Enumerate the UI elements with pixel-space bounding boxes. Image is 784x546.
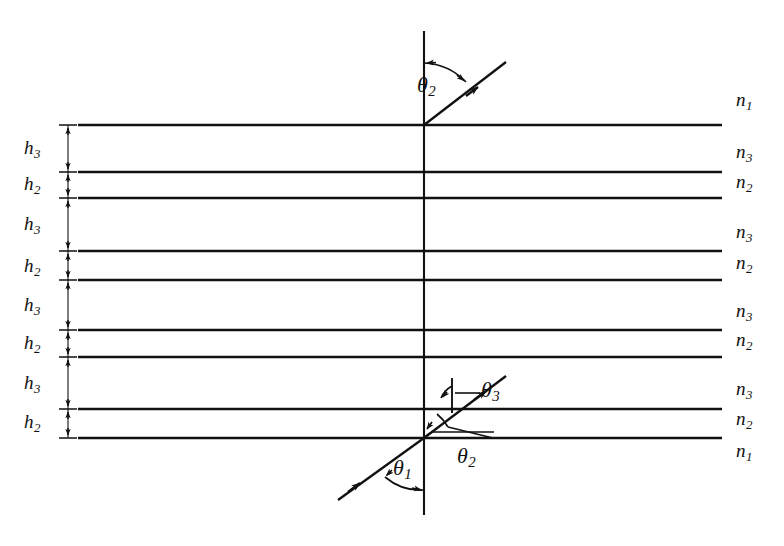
index-label-n2: n2 bbox=[736, 330, 752, 353]
theta1-arc-head-upper bbox=[387, 470, 393, 476]
incident-ray-arrowhead bbox=[348, 483, 360, 492]
angle-label-theta3: θ3 bbox=[481, 379, 500, 404]
theta2-top-arc-head-left bbox=[427, 63, 436, 64]
angle-label-theta2-bottom: θ2 bbox=[457, 445, 476, 470]
thickness-dimension-stack bbox=[59, 125, 77, 438]
angle-label-theta2-top: θ2 bbox=[417, 74, 436, 99]
index-label-n3: n3 bbox=[736, 301, 752, 324]
theta2-bottom-arc bbox=[424, 414, 494, 438]
index-label-n2: n2 bbox=[736, 409, 752, 432]
thickness-label-h3: h3 bbox=[24, 295, 40, 318]
thickness-label-h2: h2 bbox=[24, 256, 40, 279]
thickness-label-h3: h3 bbox=[24, 138, 40, 161]
index-label-n2: n2 bbox=[736, 172, 752, 195]
diagram-canvas bbox=[0, 0, 784, 546]
optics-ray-diagram-figure: n1 n3 n2 n3 n2 n3 n2 n3 n2 n1 h3 h2 h3 h… bbox=[0, 0, 784, 546]
thickness-label-h3: h3 bbox=[24, 373, 40, 396]
theta2-bottom-arc-head bbox=[427, 422, 432, 429]
angle-label-theta1: θ1 bbox=[393, 457, 412, 482]
thickness-label-h2: h2 bbox=[24, 333, 40, 356]
index-label-n2: n2 bbox=[736, 253, 752, 276]
thickness-label-h2: h2 bbox=[24, 174, 40, 197]
index-label-n1-top: n1 bbox=[736, 90, 752, 113]
theta3-arc bbox=[441, 386, 480, 398]
normal-line-group bbox=[424, 31, 452, 515]
thickness-label-h2: h2 bbox=[24, 412, 40, 435]
index-label-n3: n3 bbox=[736, 142, 752, 165]
exit-ray bbox=[424, 62, 506, 125]
interface-lines bbox=[78, 125, 722, 438]
index-label-n3: n3 bbox=[736, 222, 752, 245]
index-label-n3: n3 bbox=[736, 379, 752, 402]
thickness-label-h3: h3 bbox=[24, 214, 40, 237]
index-label-n1-bottom: n1 bbox=[736, 441, 752, 464]
